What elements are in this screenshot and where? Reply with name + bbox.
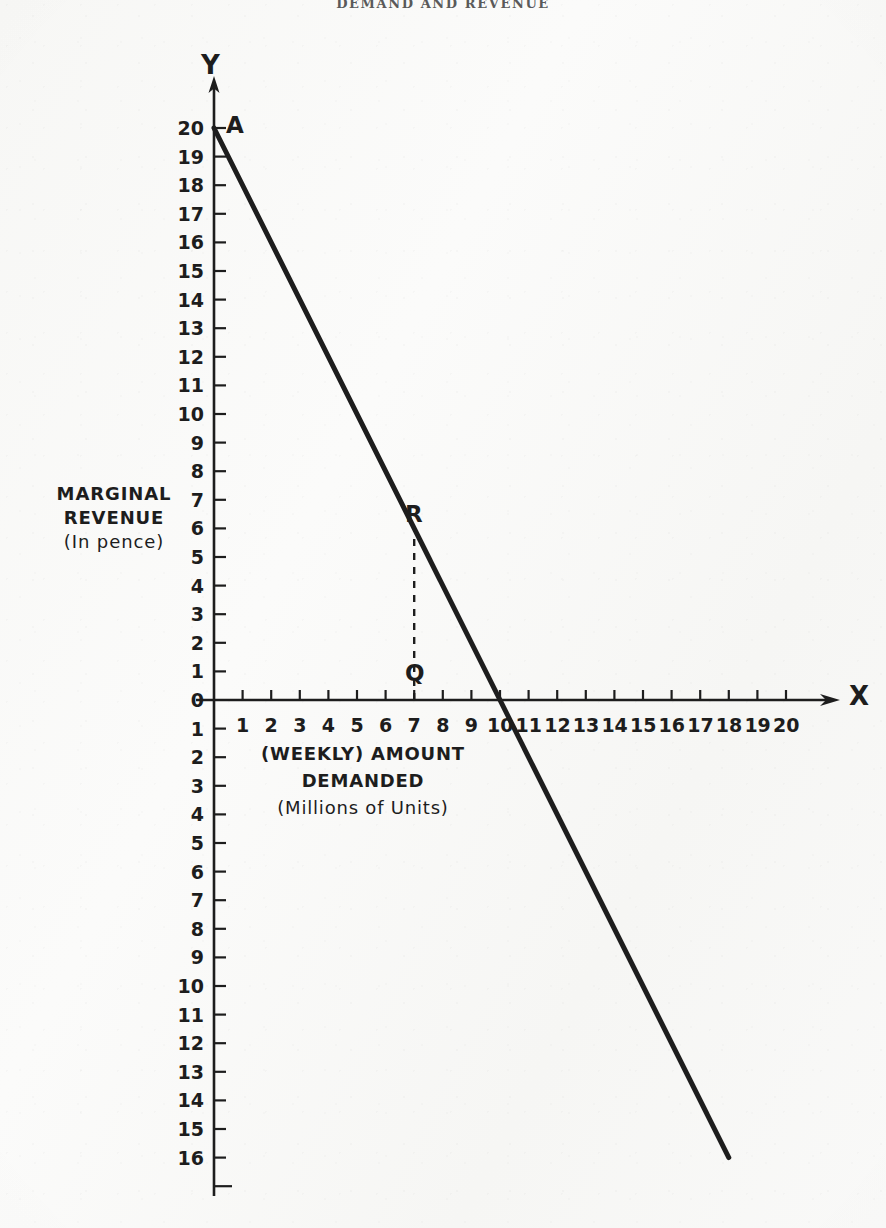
y-tick-label-neg-8: 8 (170, 920, 204, 939)
x-tick-label-19: 19 (744, 716, 770, 735)
y-tick-label-neg-10: 10 (170, 977, 204, 996)
y-tick-label-neg-1: 1 (170, 720, 204, 739)
y-axis-title-line-1: MARGINAL (48, 482, 180, 506)
x-tick-label-2: 2 (258, 716, 284, 735)
y-tick-label-neg-3: 3 (170, 777, 204, 796)
y-axis-title: MARGINAL REVENUE (In pence) (48, 482, 180, 554)
x-axis-title-line-1: (WEEKLY) AMOUNT (238, 745, 488, 763)
y-axis-positive-ticks (214, 128, 226, 671)
y-axis-negative-ticks (214, 729, 232, 1187)
y-tick-label-3: 3 (170, 605, 204, 624)
x-tick-label-5: 5 (344, 716, 370, 735)
y-tick-label-19: 19 (170, 148, 204, 167)
x-tick-label-6: 6 (373, 716, 399, 735)
x-tick-label-17: 17 (687, 716, 713, 735)
point-label-q: Q (405, 662, 425, 685)
x-tick-label-11: 11 (516, 716, 542, 735)
x-axis-title-line-2: DEMANDED (238, 772, 488, 790)
x-tick-label-20: 20 (773, 716, 799, 735)
y-tick-label-9: 9 (170, 434, 204, 453)
x-tick-label-14: 14 (601, 716, 627, 735)
x-axis-letter: X (849, 683, 869, 709)
y-tick-label-13: 13 (170, 319, 204, 338)
point-label-r: R (405, 503, 423, 526)
y-tick-label-15: 15 (170, 262, 204, 281)
x-tick-label-8: 8 (430, 716, 456, 735)
y-tick-label-0: 0 (170, 691, 204, 710)
point-label-a: A (226, 114, 244, 137)
x-tick-label-10: 10 (487, 716, 513, 735)
y-tick-label-2: 2 (170, 634, 204, 653)
x-tick-label-13: 13 (573, 716, 599, 735)
y-tick-label-18: 18 (170, 176, 204, 195)
y-tick-label-17: 17 (170, 205, 204, 224)
y-tick-label-neg-9: 9 (170, 948, 204, 967)
x-tick-label-4: 4 (315, 716, 341, 735)
x-tick-label-12: 12 (544, 716, 570, 735)
y-tick-label-4: 4 (170, 577, 204, 596)
y-tick-label-8: 8 (170, 462, 204, 481)
y-tick-label-neg-13: 13 (170, 1063, 204, 1082)
y-tick-label-neg-2: 2 (170, 748, 204, 767)
x-tick-label-18: 18 (716, 716, 742, 735)
marginal-revenue-curve (214, 128, 729, 1158)
x-axis-ticks (243, 690, 786, 700)
y-tick-label-12: 12 (170, 348, 204, 367)
y-tick-label-20: 20 (170, 119, 204, 138)
y-tick-label-neg-12: 12 (170, 1034, 204, 1053)
y-tick-label-neg-15: 15 (170, 1120, 204, 1139)
x-tick-label-16: 16 (659, 716, 685, 735)
y-tick-label-11: 11 (170, 376, 204, 395)
chart-canvas (0, 0, 886, 1228)
x-tick-label-1: 1 (230, 716, 256, 735)
y-tick-label-neg-7: 7 (170, 891, 204, 910)
y-tick-label-neg-16: 16 (170, 1149, 204, 1168)
y-tick-label-1: 1 (170, 662, 204, 681)
x-tick-label-3: 3 (287, 716, 313, 735)
y-tick-label-neg-11: 11 (170, 1006, 204, 1025)
y-tick-label-neg-4: 4 (170, 805, 204, 824)
y-tick-label-neg-14: 14 (170, 1091, 204, 1110)
y-tick-label-neg-6: 6 (170, 863, 204, 882)
y-tick-label-10: 10 (170, 405, 204, 424)
x-tick-label-7: 7 (401, 716, 427, 735)
y-axis-title-line-3: (In pence) (48, 530, 180, 554)
x-axis-title-line-3: (Millions of Units) (238, 799, 488, 817)
x-tick-label-9: 9 (458, 716, 484, 735)
y-tick-label-neg-5: 5 (170, 834, 204, 853)
y-tick-label-16: 16 (170, 233, 204, 252)
y-axis-title-line-2: REVENUE (48, 506, 180, 530)
y-axis-letter: Y (201, 52, 220, 78)
y-tick-label-14: 14 (170, 291, 204, 310)
x-tick-label-15: 15 (630, 716, 656, 735)
